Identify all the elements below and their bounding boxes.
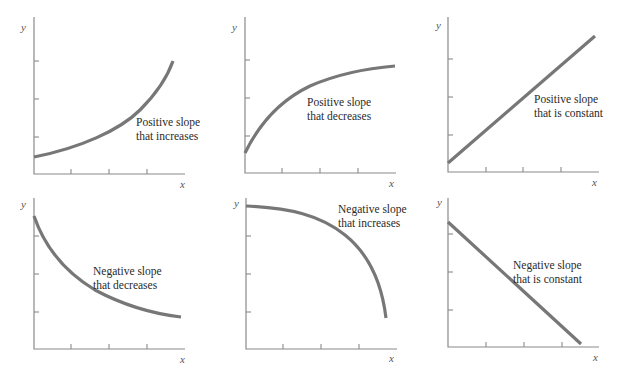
annotation-line-2: that decreases bbox=[93, 279, 158, 291]
panel-positive-decreasing: y x Positive slope that decreases bbox=[231, 17, 396, 189]
y-axis-label: y bbox=[20, 21, 26, 33]
y-axis-label: y bbox=[233, 197, 239, 209]
annotation-line-1: Positive slope bbox=[136, 116, 200, 129]
y-axis-label: y bbox=[435, 19, 441, 31]
x-ticks bbox=[486, 167, 561, 172]
y-axis-label: y bbox=[20, 198, 26, 210]
y-axis-label: y bbox=[436, 196, 442, 208]
y-ticks bbox=[245, 60, 250, 136]
y-ticks bbox=[34, 236, 39, 312]
y-ticks bbox=[246, 236, 251, 312]
slope-figure: y x Positive slope that increases y x Po… bbox=[0, 0, 621, 379]
x-ticks bbox=[282, 168, 358, 173]
annotation-line-1: Negative slope bbox=[338, 203, 407, 216]
x-axis-label: x bbox=[388, 352, 394, 364]
x-ticks bbox=[71, 344, 147, 349]
annotation-line-2: that increases bbox=[338, 217, 401, 229]
annotation-line-1: Positive slope bbox=[534, 93, 598, 106]
annotation-line-1: Positive slope bbox=[307, 96, 371, 109]
x-axis-label: x bbox=[179, 178, 185, 190]
axis-frame bbox=[245, 17, 396, 173]
annotation-line-2: that is constant bbox=[513, 273, 583, 285]
annotation-line-2: that decreases bbox=[307, 110, 372, 122]
panel-negative-decreasing: y x Negative slope that decreases bbox=[20, 198, 185, 365]
annotation-line-2: that is constant bbox=[534, 107, 604, 119]
x-axis-label: x bbox=[591, 176, 597, 188]
panel-positive-increasing: y x Positive slope that increases bbox=[20, 17, 200, 190]
panel-positive-constant: y x Positive slope that is constant bbox=[435, 17, 604, 188]
y-ticks bbox=[448, 234, 453, 310]
x-ticks bbox=[486, 342, 562, 347]
annotation-line-2: that increases bbox=[136, 130, 199, 142]
x-ticks bbox=[71, 169, 147, 174]
panel-negative-constant: y x Negative slope that is constant bbox=[436, 196, 599, 363]
y-axis-label: y bbox=[231, 21, 237, 33]
x-axis-label: x bbox=[388, 177, 394, 189]
x-axis-label: x bbox=[179, 353, 185, 365]
y-ticks bbox=[448, 59, 453, 135]
curve-positive-increasing bbox=[34, 61, 173, 157]
annotation-line-1: Negative slope bbox=[513, 259, 582, 272]
x-axis-label: x bbox=[592, 351, 598, 363]
x-ticks bbox=[283, 344, 359, 349]
y-ticks bbox=[34, 61, 39, 137]
panel-negative-increasing: y x Negative slope that increases bbox=[233, 197, 407, 364]
annotation-line-1: Negative slope bbox=[93, 265, 162, 278]
